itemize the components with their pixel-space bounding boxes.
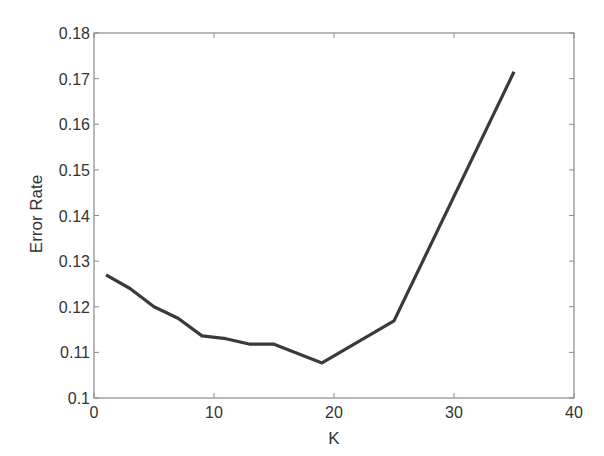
x-tick-label: 0 (90, 404, 99, 421)
y-tick-label: 0.18 (59, 25, 90, 42)
x-axis-title: K (328, 429, 340, 448)
y-tick-label: 0.15 (59, 162, 90, 179)
y-tick-label: 0.12 (59, 299, 90, 316)
error-rate-line (106, 72, 514, 363)
plot-frame (94, 33, 574, 398)
y-tick-label: 0.1 (68, 390, 90, 407)
y-tick-label: 0.13 (59, 253, 90, 270)
error-rate-chart: 0.10.110.120.130.140.150.160.170.18 0102… (0, 0, 604, 456)
y-tick-label: 0.16 (59, 116, 90, 133)
y-tick-label: 0.14 (59, 208, 90, 225)
x-tick-label: 40 (565, 404, 583, 421)
series-layer (106, 72, 514, 363)
y-axis-title: Error Rate (27, 175, 46, 253)
y-axis: 0.10.110.120.130.140.150.160.170.18 (59, 25, 574, 407)
x-tick-label: 20 (325, 404, 343, 421)
x-tick-label: 10 (205, 404, 223, 421)
x-axis: 010203040 (90, 33, 583, 421)
x-tick-label: 30 (445, 404, 463, 421)
y-tick-label: 0.11 (60, 344, 90, 361)
plot-area (94, 33, 574, 398)
y-tick-label: 0.17 (59, 71, 90, 88)
